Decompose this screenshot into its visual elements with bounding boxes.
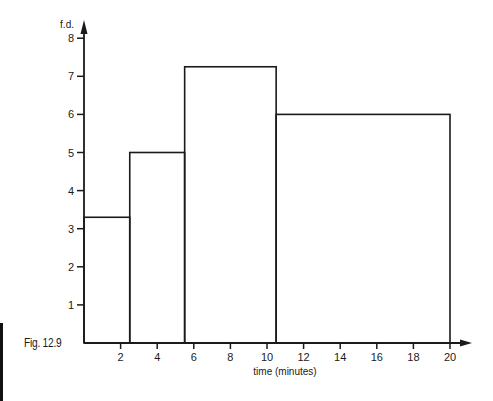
histogram-bar bbox=[276, 114, 450, 343]
y-tick-label: 8 bbox=[68, 32, 74, 44]
figure-caption: Fig. 12.9 bbox=[24, 336, 61, 350]
x-tick-label: 10 bbox=[261, 351, 273, 363]
y-tick-label: 7 bbox=[68, 70, 74, 82]
histogram-bar bbox=[84, 217, 130, 343]
y-tick-label: 5 bbox=[68, 147, 74, 159]
x-tick-label: 12 bbox=[297, 351, 309, 363]
y-tick-label: 3 bbox=[68, 223, 74, 235]
x-tick-label: 6 bbox=[191, 351, 197, 363]
x-tick-label: 16 bbox=[371, 351, 383, 363]
y-axis-label: f.d. bbox=[60, 19, 74, 30]
histogram-bar bbox=[185, 67, 277, 343]
x-tick-label: 18 bbox=[407, 351, 419, 363]
y-tick-label: 2 bbox=[68, 261, 74, 273]
histogram-bars bbox=[84, 67, 450, 343]
x-tick-label: 2 bbox=[118, 351, 124, 363]
histogram-bar bbox=[130, 153, 185, 344]
x-tick-label: 14 bbox=[334, 351, 346, 363]
x-tick-label: 4 bbox=[154, 351, 160, 363]
page-edge-mark bbox=[0, 323, 3, 401]
y-axis-arrow-icon bbox=[81, 20, 88, 34]
x-tick-label: 8 bbox=[227, 351, 233, 363]
histogram-chart: 12345678 2468101214161820 f.d. time (min… bbox=[0, 0, 493, 401]
y-axis-ticks: 12345678 bbox=[68, 32, 84, 311]
y-tick-label: 1 bbox=[68, 299, 74, 311]
x-tick-label: 20 bbox=[444, 351, 456, 363]
x-axis-label: time (minutes) bbox=[253, 366, 316, 377]
y-tick-label: 6 bbox=[68, 108, 74, 120]
x-axis-ticks: 2468101214161820 bbox=[118, 343, 457, 363]
y-tick-label: 4 bbox=[68, 185, 74, 197]
x-axis-arrow-icon bbox=[460, 340, 472, 347]
